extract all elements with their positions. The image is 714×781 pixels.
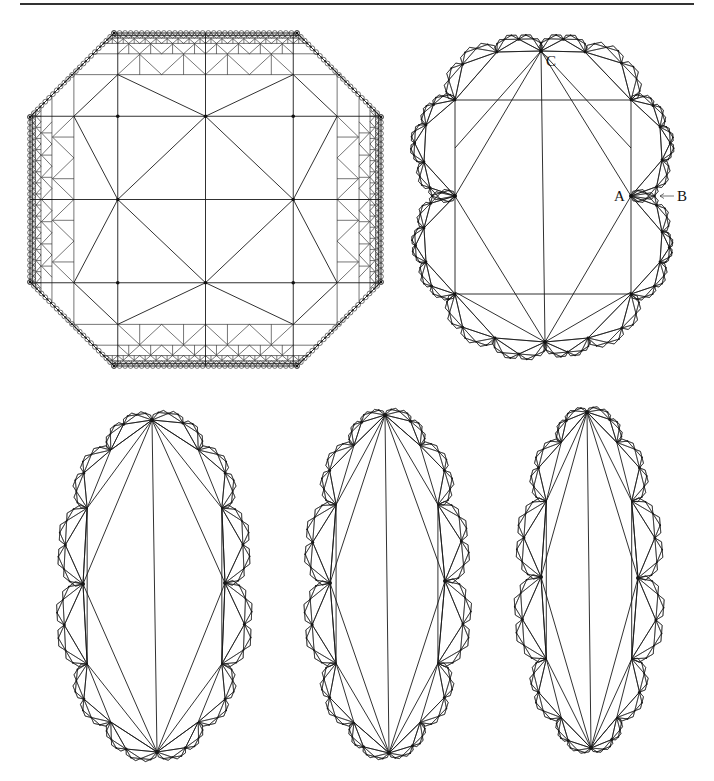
triangulation-figure: A B C xyxy=(0,0,714,781)
label-B: B xyxy=(677,188,687,204)
oval-narrow-panel xyxy=(514,407,665,754)
oval-wide-panel xyxy=(56,410,252,761)
scalloped-rectangle-panel xyxy=(410,34,674,360)
oval-medium-panel xyxy=(304,408,472,759)
label-C: C xyxy=(546,53,556,69)
label-A: A xyxy=(614,188,625,204)
octagon-grid-panel xyxy=(28,31,384,369)
